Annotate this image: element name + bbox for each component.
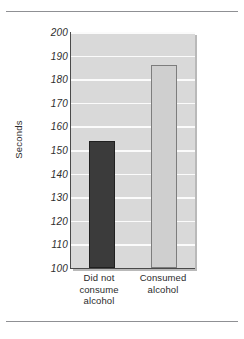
bar-1 xyxy=(151,65,177,268)
y-tick-label: 180 xyxy=(30,74,68,85)
bottom-divider-rule xyxy=(6,321,238,322)
y-axis-title: Seconds xyxy=(13,105,24,175)
y-tick-label: 110 xyxy=(30,239,68,250)
figure-page: Seconds 10011012013014015016017018019020… xyxy=(0,0,244,339)
y-tick-label: 130 xyxy=(30,192,68,203)
x-category-label-line: alcohol xyxy=(132,284,194,296)
y-tick-label: 170 xyxy=(30,97,68,108)
y-tick-label: 160 xyxy=(30,121,68,132)
x-category-label-1: Consumedalcohol xyxy=(132,272,194,295)
bar-chart: Seconds 10011012013014015016017018019020… xyxy=(0,14,244,319)
y-tick-label: 150 xyxy=(30,145,68,156)
x-category-label-line: alcohol xyxy=(68,295,130,307)
bar-0 xyxy=(89,141,115,268)
y-axis-tick-labels: 100110120130140150160170180190200 xyxy=(30,32,68,268)
y-tick-label: 140 xyxy=(30,168,68,179)
gridline xyxy=(71,32,195,34)
x-category-label-line: consume xyxy=(68,284,130,296)
gridline xyxy=(71,56,195,58)
top-divider-rule xyxy=(6,11,238,12)
x-category-label-line: Did not xyxy=(68,272,130,284)
y-tick-label: 200 xyxy=(30,27,68,38)
plot-area xyxy=(70,32,195,269)
y-tick-label: 120 xyxy=(30,215,68,226)
x-axis-category-labels: Did notconsumealcoholConsumedalcohol xyxy=(70,272,196,320)
x-category-label-line: Consumed xyxy=(132,272,194,284)
x-category-label-0: Did notconsumealcohol xyxy=(68,272,130,307)
y-tick-label: 100 xyxy=(30,263,68,274)
y-tick-label: 190 xyxy=(30,50,68,61)
